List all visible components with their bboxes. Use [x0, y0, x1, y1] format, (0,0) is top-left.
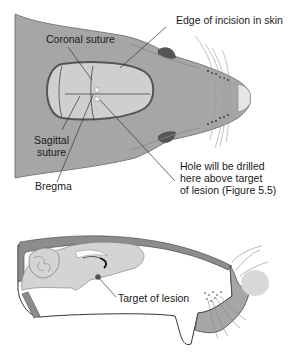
label-bregma: Bregma	[35, 180, 72, 192]
nose-icon	[238, 84, 251, 112]
label-hole-line3: of lesion (Figure 5.5)	[180, 184, 276, 196]
label-edge-of-incision: Edge of incision in skin	[176, 14, 283, 26]
label-hole-line1: Hole will be drilled	[180, 160, 276, 172]
label-hole-drilled: Hole will be drilled here above target o…	[180, 160, 276, 196]
surgical-diagram: Edge of incision in skin Coronal suture …	[0, 0, 297, 359]
rat-head-side-view	[18, 236, 269, 345]
label-sagittal-suture: Sagittal suture	[34, 134, 69, 158]
nose-side-icon	[241, 270, 269, 296]
label-sagittal-line2: suture	[34, 146, 69, 158]
label-coronal-suture: Coronal suture	[46, 33, 115, 45]
label-target-of-lesion: Target of lesion	[118, 292, 189, 304]
label-sagittal-line1: Sagittal	[34, 134, 69, 146]
bregma-marker	[95, 97, 99, 101]
incision-area	[47, 62, 153, 119]
label-hole-line2: here above target	[180, 172, 276, 184]
hole-marker	[95, 88, 99, 92]
